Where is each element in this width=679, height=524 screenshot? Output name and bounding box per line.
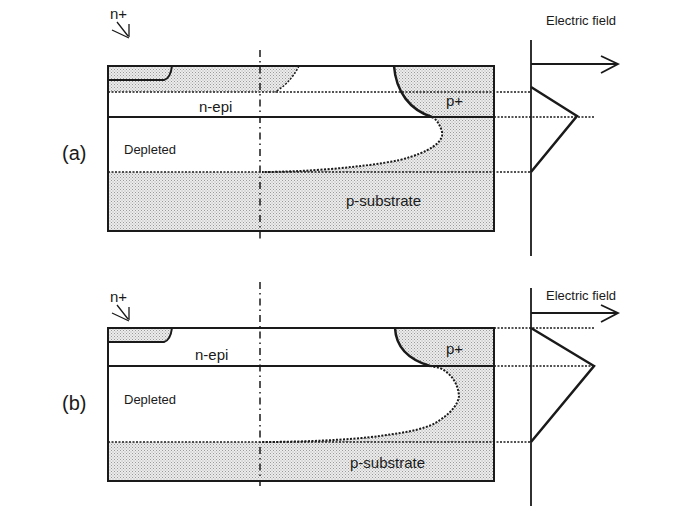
panel-label-a: (a) [62, 142, 86, 164]
n-plus-label-b: n+ [110, 288, 127, 305]
p-substrate-region-b [108, 442, 494, 481]
electric-field-label-b: Electric field [546, 288, 616, 303]
n-plus-pointer-arrow-icon-a [112, 22, 129, 38]
p-plus-region-a [262, 66, 494, 172]
n-plus-region-b [108, 328, 172, 342]
panel-a: (a) n+ n-epi Depleted p+ p-substrate [62, 5, 618, 256]
depletion-diagram: (a) n+ n-epi Depleted p+ p-substrate [0, 0, 679, 524]
p-substrate-label-b: p-substrate [350, 454, 425, 471]
p-substrate-region-a [108, 172, 494, 231]
n-plus-label-a: n+ [110, 5, 127, 22]
n-epi-label-b: n-epi [195, 346, 228, 363]
p-plus-label-b: p+ [446, 340, 463, 357]
field-profile-b [531, 328, 594, 442]
depleted-label-b: Depleted [124, 392, 176, 407]
p-substrate-label-a: p-substrate [346, 192, 421, 209]
p-plus-label-a: p+ [446, 92, 463, 109]
n-epi-label-a: n-epi [199, 98, 232, 115]
electric-field-label-a: Electric field [546, 13, 616, 28]
depleted-label-a: Depleted [124, 142, 176, 157]
panel-label-b: (b) [62, 392, 86, 414]
field-profile-a [531, 87, 577, 172]
panel-b: (b) n+ n-epi Depleted p+ p-substrate El [62, 282, 618, 506]
n-plus-pointer-arrow-icon-b [112, 305, 129, 321]
